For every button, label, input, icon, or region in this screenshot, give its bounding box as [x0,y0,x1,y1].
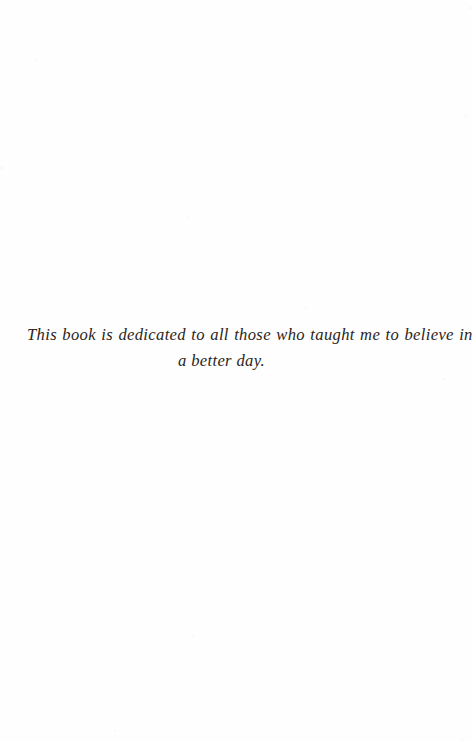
dedication-line-2: a better day. [27,348,438,374]
page-top-blank-area [0,0,473,320]
dedication-line-1: This book is dedicated to all those who … [27,322,438,348]
page-bottom-blank-area [0,382,473,742]
dedication-text-block: This book is dedicated to all those who … [27,322,438,374]
dedication-page: This book is dedicated to all those who … [0,0,473,742]
